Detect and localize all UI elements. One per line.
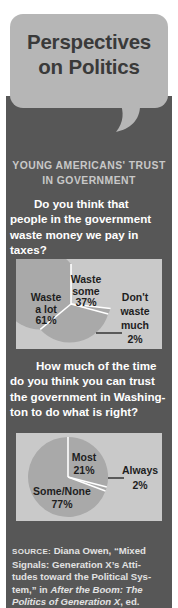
svg-text:Waste: Waste [31,291,62,303]
caption-line-1: YOUNG AMERICANS' TRUST [6,158,172,173]
page-title: Perspectives on Politics [10,29,168,79]
svg-text:waste: waste [119,305,149,317]
speech-bubble-tail-icon [96,100,140,132]
question-1: Do you think that people in the governme… [10,196,168,257]
svg-text:Some/None: Some/None [33,485,91,497]
source-label: SOURCE: [12,547,51,556]
perspectives-on-politics-figure: Perspectives on Politics YOUNG AMERICANS… [0,0,178,608]
svg-text:61%: 61% [35,314,57,326]
svg-text:21%: 21% [73,464,95,476]
svg-text:2%: 2% [127,333,143,345]
svg-text:much: much [121,319,149,331]
svg-text:Most: Most [72,451,97,463]
svg-text:a lot: a lot [35,303,57,315]
svg-text:Waste: Waste [71,273,102,285]
svg-text:37%: 37% [75,296,97,308]
svg-text:some: some [72,285,100,297]
pie-chart-2: Most 21% Always 2% Some/None 77% [16,433,162,521]
title-bubble: Perspectives on Politics [10,14,168,108]
svg-text:2%: 2% [132,479,148,491]
question-2: How much of the time do you think you ca… [10,358,168,419]
svg-text:Always: Always [122,464,158,476]
title-line-1: Perspectives [10,29,168,54]
section-caption: YOUNG AMERICANS' TRUST IN GOVERNMENT [6,158,172,188]
title-line-2: on Politics [10,54,168,79]
source-text-2: , ed. [120,596,139,607]
svg-text:Don't: Don't [122,291,149,303]
pie-chart-1: Waste a lot 61% Waste some 37% Don't was… [16,259,162,349]
caption-line-2: IN GOVERNMENT [6,173,172,188]
svg-text:77%: 77% [51,498,73,510]
source-citation: SOURCE: Diana Owen, “Mixed Signals: Gene… [12,545,166,608]
